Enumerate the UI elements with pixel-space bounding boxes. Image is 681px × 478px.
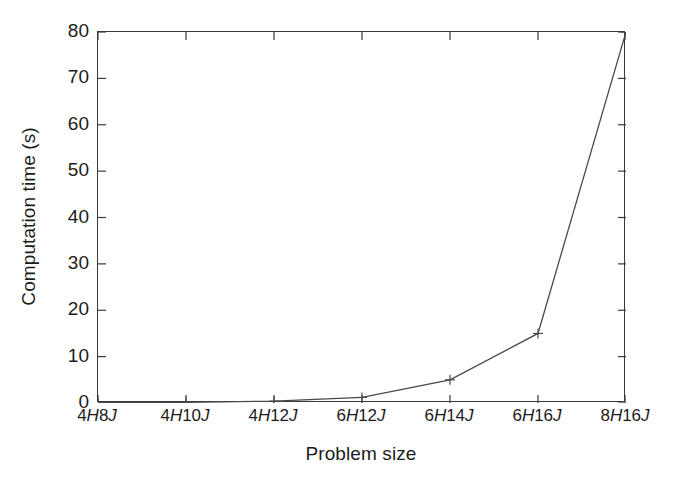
y-tick-label: 30 [49,253,89,272]
data-point-marker [533,328,543,338]
x-tick-marks [98,32,626,403]
x-tick-label: 6H14J [424,406,473,425]
data-point-marker [269,396,279,403]
x-tick-label: 4H10J [160,406,209,425]
y-tick-label: 80 [49,21,89,40]
y-tick-label: 70 [49,67,89,86]
x-axis-tick-labels: 4H8J4H10J4H12J6H12J6H14J6H16J8H16J [0,406,681,432]
data-point-marker [181,397,191,403]
data-point-marker [445,375,455,385]
data-series-line [98,32,626,403]
data-plot [98,32,626,403]
x-axis-title: Problem size [97,443,625,465]
data-point-marker [357,392,367,402]
x-tick-label: 8H16J [600,406,649,425]
x-tick-label: 6H16J [512,406,561,425]
plot-area [97,31,625,402]
data-point-marker [98,398,103,403]
y-tick-label: 10 [49,346,89,365]
y-tick-label: 50 [49,160,89,179]
y-tick-label: 40 [49,207,89,226]
x-tick-label: 4H12J [248,406,297,425]
x-tick-label: 4H8J [77,406,117,425]
x-tick-label: 6H12J [336,406,385,425]
y-tick-label: 60 [49,114,89,133]
figure-canvas: Computation time (s) 01020304050607080 4… [0,0,681,478]
y-tick-label: 20 [49,299,89,318]
y-axis-title: Computation time (s) [14,31,44,402]
data-point-markers [98,32,626,403]
y-tick-marks [98,32,626,403]
